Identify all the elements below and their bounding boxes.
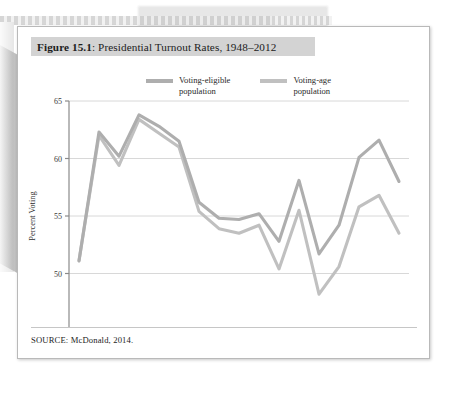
y-tick-label: 60 bbox=[54, 155, 62, 164]
figure-card: Figure 15.1: Presidential Turnout Rates,… bbox=[17, 26, 430, 359]
y-axis-title: Percent Voting bbox=[28, 191, 37, 241]
series-line bbox=[79, 115, 399, 261]
turnout-line-chart: 4550556065 19481956196419721980198819962… bbox=[18, 27, 431, 327]
source-divider bbox=[31, 327, 417, 328]
y-tick-label: 55 bbox=[54, 212, 62, 221]
y-tick-label: 50 bbox=[54, 270, 62, 279]
y-axis-tick-labels: 4550556065 bbox=[54, 97, 62, 327]
series-line bbox=[79, 119, 399, 294]
source-note: SOURCE: McDonald, 2014. bbox=[31, 335, 133, 345]
scan-artifact-dashes-right bbox=[272, 16, 332, 25]
series-lines bbox=[79, 115, 399, 294]
y-tick-label: 65 bbox=[54, 97, 62, 106]
